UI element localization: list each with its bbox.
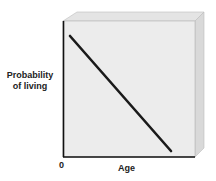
x-axis-label: Age <box>118 163 135 174</box>
y-axis-label-line1: Probability <box>4 70 56 81</box>
box-side-face <box>195 12 204 157</box>
origin-label: 0 <box>59 160 64 171</box>
y-axis-label-line2: of living <box>4 81 56 92</box>
plot-area <box>63 21 195 157</box>
y-axis-label: Probability of living <box>4 70 56 92</box>
box-top-face <box>63 12 204 21</box>
